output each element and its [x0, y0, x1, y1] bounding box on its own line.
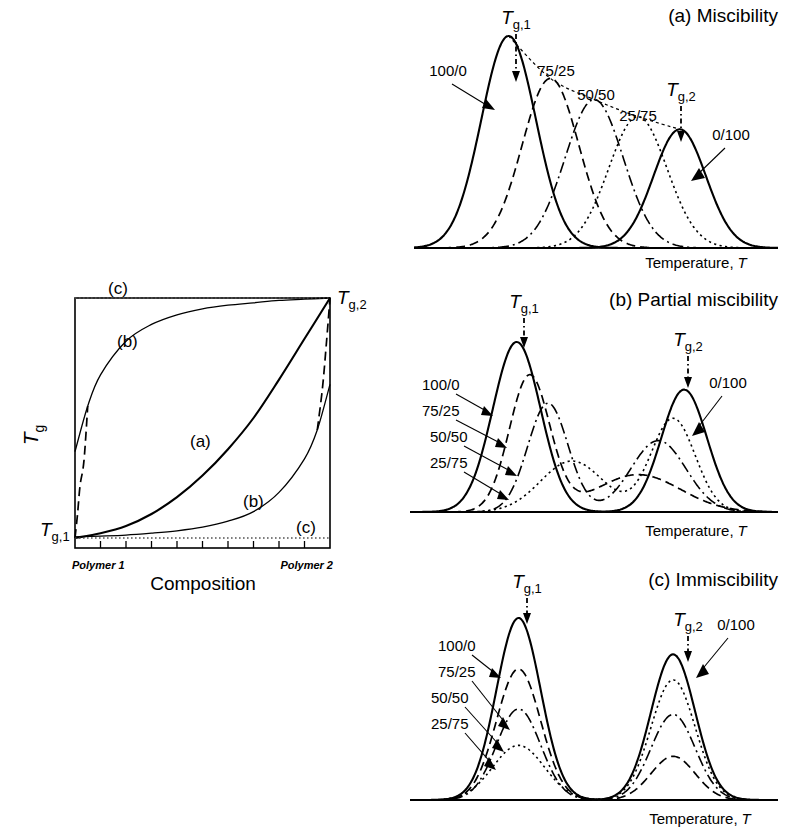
panel-c-svg: (c) Immiscibility Tg,1 Tg,2 100/0 75/25 … — [400, 560, 792, 840]
panel-a-label-100-0: 100/0 — [429, 62, 467, 79]
panel-a-label-50-50: 50/50 — [577, 86, 615, 103]
panel-c-immiscibility: (c) Immiscibility Tg,1 Tg,2 100/0 75/25 … — [400, 560, 792, 840]
panel-b-tg2-label: Tg,2 — [673, 329, 703, 354]
panel-a-tg2-arrowhead — [677, 131, 685, 142]
panel-a-label-75-25: 75/25 — [537, 62, 575, 79]
panel-c-arrow-0-100 — [696, 664, 709, 678]
panel-b-tg2-arrowhead — [684, 377, 692, 388]
panel-c-tg2-arrowhead — [684, 651, 692, 662]
left-plot-svg: Tg Tg,1 Tg,2 (c) (b) (a) (b) (c) Polymer… — [0, 250, 400, 600]
panel-b-leader-25-75 — [464, 472, 504, 496]
left-plot-label-c-lower: (c) — [296, 518, 316, 537]
panel-b-curve-100-0 — [410, 342, 778, 512]
panel-a-tg1-arrowhead — [512, 71, 520, 82]
panel-c-label-100-0: 100/0 — [438, 637, 476, 654]
panel-b-svg: (b) Partial miscibility Tg,1 Tg,2 100/0 … — [400, 280, 792, 560]
left-plot-series-2 — [75, 384, 330, 536]
panel-b-xlabel: Temperature,T — [645, 522, 748, 539]
left-plot-ylabel: Tg — [19, 425, 47, 446]
left-plot-label-b-upper: (b) — [117, 332, 138, 351]
left-plot-xend-label: Polymer 2 — [280, 559, 333, 571]
panel-a-label-0-100: 0/100 — [712, 126, 750, 143]
panel-c-label-0-100: 0/100 — [717, 616, 755, 633]
svg-text:Tg: Tg — [19, 425, 47, 446]
panel-a-miscibility: (a) Miscibility Tg,1 Tg,2 100/0 75/25 50… — [400, 0, 792, 280]
panel-c-label-50-50: 50/50 — [431, 689, 469, 706]
panel-b-arrow-75-25 — [495, 438, 507, 448]
left-plot-panel: Tg Tg,1 Tg,2 (c) (b) (a) (b) (c) Polymer… — [0, 250, 400, 600]
panel-a-svg: (a) Miscibility Tg,1 Tg,2 100/0 75/25 50… — [400, 0, 792, 280]
left-plot-xticks — [101, 541, 305, 548]
panel-b-label-75-25: 75/25 — [422, 402, 460, 419]
left-plot-series-0 — [75, 298, 330, 538]
left-plot-xlabel: Composition — [150, 573, 256, 594]
panel-c-xlabel: Temperature,T — [649, 810, 752, 827]
panel-b-label-50-50: 50/50 — [430, 428, 468, 445]
left-plot-curves — [75, 298, 330, 538]
panel-a-title: (a) Miscibility — [668, 5, 778, 26]
left-plot-label-c-upper: (c) — [108, 279, 128, 298]
panel-b-partial-miscibility: (b) Partial miscibility Tg,1 Tg,2 100/0 … — [400, 280, 792, 560]
panel-b-arrow-25-75 — [497, 490, 509, 500]
panel-b-arrow-100-0 — [481, 406, 493, 416]
left-plot-label-b-lower: (b) — [243, 492, 264, 511]
panel-a-curve-0-100 — [414, 129, 778, 248]
panel-b-label-25-75: 25/75 — [430, 454, 468, 471]
panel-a-tg2-label: Tg,2 — [666, 79, 696, 104]
panel-a-label-25-75: 25/75 — [619, 107, 657, 124]
panel-b-tg1-label: Tg,1 — [509, 291, 539, 316]
panel-a-tg1-label: Tg,1 — [501, 7, 531, 32]
panel-a-leader-100-0 — [452, 84, 488, 106]
left-plot-label-a: (a) — [190, 432, 211, 451]
panel-b-arrow-50-50 — [505, 466, 517, 476]
panel-b-label-0-100: 0/100 — [709, 374, 747, 391]
panel-c-label-25-75: 25/75 — [431, 715, 469, 732]
panel-b-title: (b) Partial miscibility — [609, 289, 778, 310]
panel-c-title: (c) Immiscibility — [648, 569, 778, 590]
left-plot-xstart-label: Polymer 1 — [72, 559, 125, 571]
panel-c-label-75-25: 75/25 — [438, 663, 476, 680]
panel-c-tg2-label: Tg,2 — [673, 609, 703, 634]
left-plot-tg2-label: Tg,2 — [337, 287, 367, 312]
figure-root: Tg Tg,1 Tg,2 (c) (b) (a) (b) (c) Polymer… — [0, 0, 792, 840]
panel-a-curve-75-25 — [414, 78, 778, 248]
left-plot-frame — [75, 298, 330, 548]
left-plot-series-1 — [75, 298, 330, 452]
panel-b-label-100-0: 100/0 — [422, 376, 460, 393]
panel-a-xlabel: Temperature,T — [645, 254, 748, 271]
left-plot-tg1-label: Tg,1 — [40, 519, 70, 544]
panel-b-curves — [410, 342, 778, 512]
panel-c-tg1-label: Tg,1 — [512, 571, 542, 596]
